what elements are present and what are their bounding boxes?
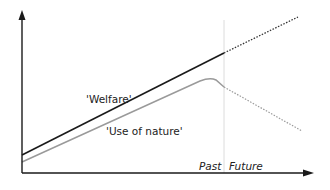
welfare-label: 'Welfare' <box>86 94 132 105</box>
use-of-nature-line <box>22 79 224 162</box>
y-axis-arrow-icon <box>19 10 26 20</box>
past-label: Past <box>199 161 221 172</box>
use-of-nature-projection <box>224 87 302 131</box>
use-of-nature-label: 'Use of nature' <box>106 126 183 137</box>
welfare-projection <box>224 17 298 53</box>
diagram-canvas <box>0 0 330 190</box>
future-label: Future <box>229 161 263 172</box>
x-axis-arrow-icon <box>303 170 314 177</box>
